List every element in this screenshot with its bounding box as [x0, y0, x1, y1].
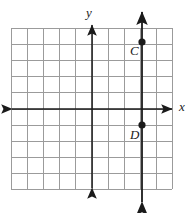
y-axis-label: y: [86, 6, 92, 19]
point-c-label: C: [130, 44, 139, 57]
point-d-label: D: [130, 128, 139, 141]
point-d-dot: [138, 121, 145, 128]
coordinate-graph-figure: y x C D: [0, 0, 194, 213]
x-axis-label: x: [179, 100, 185, 113]
graph-canvas: [0, 0, 194, 213]
point-c-dot: [138, 38, 145, 45]
